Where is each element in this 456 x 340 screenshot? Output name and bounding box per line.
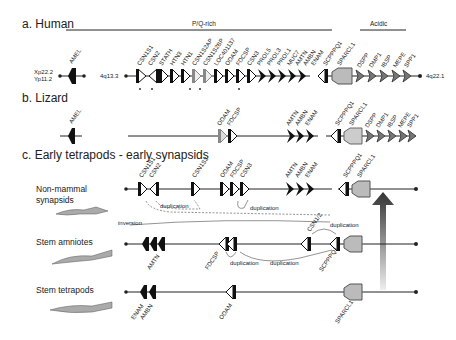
panel-a-title: a. Human [22, 17, 74, 31]
amel-gene [68, 68, 76, 84]
svg-text:AMEL: AMEL [68, 47, 83, 64]
synteny-diagram: a. Human P/Q-rich Acidic Xp22.2 Yp11.2 A… [0, 0, 456, 340]
locus-yp: Yp11.2 [34, 76, 53, 82]
pq-rich-label: P/Q-rich [192, 20, 216, 28]
svg-text:duplication: duplication [270, 260, 299, 266]
svg-text:AMTN: AMTN [146, 253, 161, 270]
svg-text:duplication: duplication [250, 205, 279, 211]
inversion-label: inversion [118, 220, 142, 226]
svg-text:synapsids: synapsids [36, 195, 74, 205]
locus-xp: Xp22.2 [34, 69, 54, 75]
human-gene-labels: CSN1S1 CSN2 STATH HTN3 HTN1 CSN1S2AP CSN… [136, 36, 417, 68]
panel-c-title: c. Early tetrapods - early synapsids [22, 148, 209, 162]
locus-4q13: 4q13.3 [100, 73, 119, 79]
evolution-arrow [372, 192, 394, 290]
svg-text:SCPPPQ1: SCPPPQ1 [318, 245, 340, 272]
panel-b-title: b. Lizard [22, 91, 68, 105]
human-gene-row [136, 68, 411, 84]
svg-text:FDCSP: FDCSP [204, 250, 221, 270]
amniote-silhouette [52, 250, 112, 264]
synapsid-silhouette [56, 207, 108, 215]
svg-text:ODAM: ODAM [218, 302, 233, 320]
svg-text:FDCSP: FDCSP [226, 106, 243, 126]
tetrapod-silhouette [50, 302, 112, 313]
svg-text:Stem tetrapods: Stem tetrapods [36, 285, 94, 295]
svg-text:duplication: duplication [160, 203, 189, 209]
svg-text:Stem amniotes: Stem amniotes [36, 237, 93, 247]
locus-4q22: 4q22.1 [426, 73, 445, 79]
svg-text:duplication: duplication [230, 260, 259, 266]
svg-text:duplication: duplication [330, 222, 359, 228]
svg-text:AMEL: AMEL [68, 107, 83, 124]
svg-text:IBSP: IBSP [380, 54, 393, 69]
svg-text:SPARCL1: SPARCL1 [334, 299, 355, 325]
acidic-label: Acidic [370, 20, 388, 27]
svg-text:Non-mammal: Non-mammal [36, 184, 87, 194]
